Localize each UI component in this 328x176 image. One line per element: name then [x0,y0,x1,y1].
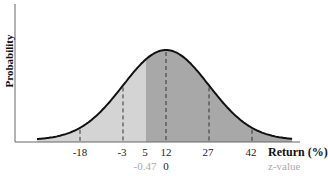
z-axis-label: z-value [268,160,300,172]
x-tick-label: 12 [161,146,172,158]
x-tick-label: 27 [203,146,214,158]
y-axis-label-text: Probability [3,35,15,88]
right-shaded-region [146,0,323,142]
y-axis-label: Probability [2,6,16,116]
z-tick-label: 0 [163,160,169,172]
x-tick-label: 42 [246,146,257,158]
x-axis-label: Return (%) [268,145,328,160]
left-shaded-region [0,0,146,142]
z-tick-label: -0.47 [134,160,157,172]
x-tick-label: 5 [142,146,148,158]
x-tick-label: -3 [117,146,126,158]
x-tick-label: -18 [73,146,88,158]
